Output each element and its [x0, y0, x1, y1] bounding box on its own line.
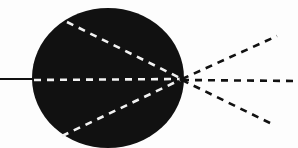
dashed-ray-lower-right	[182, 80, 272, 124]
dashed-ray-middle-right	[182, 80, 298, 81]
focal-point	[180, 77, 185, 82]
outer-dashed-rays	[182, 36, 298, 124]
ray-diagram	[0, 0, 298, 148]
dashed-ray-upper-right	[182, 36, 277, 79]
black-circular-body	[32, 8, 184, 148]
diagram-canvas: Black circular body with an incoming sol…	[0, 0, 298, 148]
